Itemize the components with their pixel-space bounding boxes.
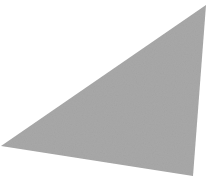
gray-triangle-shape [1,5,206,176]
canvas [0,0,220,179]
